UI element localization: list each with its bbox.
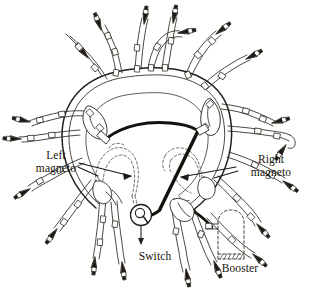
booster-outline	[218, 210, 244, 259]
label-left-magneto: Left magneto	[28, 149, 84, 174]
label-right-magneto: Right magneto	[240, 153, 302, 178]
label-booster: Booster	[216, 262, 264, 275]
leader-lines	[78, 163, 238, 181]
booster-hatching	[220, 254, 243, 259]
label-switch: Switch	[131, 250, 179, 263]
spark-plug-leads-left	[3, 111, 96, 245]
spark-plug-leads-top	[66, 5, 263, 89]
harness-fittings	[83, 65, 220, 222]
diagram-canvas	[0, 0, 312, 292]
ignition-wiring-diagram: Left magneto Right magneto Switch Booste…	[0, 0, 312, 292]
diagram-linework	[3, 5, 299, 287]
ignition-switch[interactable]	[131, 205, 152, 246]
